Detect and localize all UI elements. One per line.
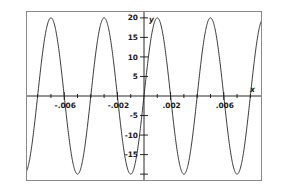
y-tick-label: 15 <box>128 33 138 42</box>
plot-frame: -.006-.002.002.006-15-10-55101520xy <box>26 11 262 181</box>
y-tick-label: 5 <box>133 72 138 81</box>
y-tick-label: -15 <box>125 150 138 159</box>
plot-svg: -.006-.002.002.006-15-10-55101520xy <box>27 12 261 180</box>
x-axis-name: x <box>249 85 256 94</box>
y-tick-label: 20 <box>128 13 138 22</box>
y-tick-label: 10 <box>128 53 138 62</box>
x-tick-label: .002 <box>162 101 180 110</box>
x-tick-label: -.002 <box>108 101 129 110</box>
figure-canvas: -.006-.002.002.006-15-10-55101520xy <box>0 0 290 193</box>
y-tick-label: -10 <box>125 131 138 140</box>
axis-labels: -.006-.002.002.006-15-10-55101520xy <box>55 13 257 159</box>
y-tick-label: -5 <box>130 111 138 120</box>
x-tick-label: -.006 <box>55 101 76 110</box>
x-tick-label: .006 <box>216 101 234 110</box>
